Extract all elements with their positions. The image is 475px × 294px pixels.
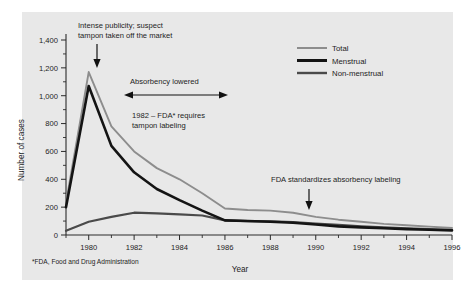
chart-figure: 02004006008001,0001,2001,400198019821984…	[0, 0, 475, 294]
y-tick-label: 1,000	[39, 92, 58, 101]
x-tick-label: 1982	[126, 243, 143, 252]
chart-svg: 02004006008001,0001,2001,400198019821984…	[0, 0, 475, 294]
annotation-absorbency-arrow	[124, 91, 228, 98]
x-tick-label: 1986	[216, 243, 233, 252]
legend-label-menstrual: Menstrual	[332, 57, 367, 66]
series-line-total	[66, 72, 452, 228]
y-tick-label: 600	[45, 147, 58, 156]
x-tick-label: 1996	[444, 243, 461, 252]
legend-label-total: Total	[332, 44, 349, 53]
y-tick-label: 400	[45, 175, 58, 184]
y-tick-label: 200	[45, 203, 58, 212]
x-tick-label: 1992	[353, 243, 370, 252]
annotation-fda1990-arrow	[305, 189, 312, 210]
y-tick-label: 1,200	[39, 64, 58, 73]
annotation-fda1982-line1: 1982 – FDA* requires	[132, 111, 205, 120]
x-axis-title: Year	[232, 265, 249, 274]
x-tick-label: 1990	[307, 243, 324, 252]
y-axis-title: Number of cases	[17, 119, 26, 181]
chart-legend: TotalMenstrualNon-menstrual	[297, 44, 383, 78]
series-line-menstrual	[66, 86, 452, 230]
annotation-peak-line2: tampon taken off the market	[78, 31, 173, 40]
chart-plot-area: 02004006008001,0001,2001,400198019821984…	[0, 0, 475, 294]
annotation-fda1982-line2: tampon labeling	[132, 121, 186, 130]
x-tick-label: 1980	[80, 243, 97, 252]
annotation-peak-line1: Intense publicity; suspect	[78, 21, 164, 30]
annotation-fda1990-label: FDA standardizes absorbency labeling	[271, 175, 401, 184]
y-tick-label: 800	[45, 119, 58, 128]
x-tick-label: 1988	[262, 243, 279, 252]
footnote: *FDA, Food and Drug Administration	[32, 258, 139, 266]
series-layer	[66, 72, 452, 231]
y-tick-label: 1,400	[39, 36, 58, 45]
legend-label-non-menstrual: Non-menstrual	[332, 69, 383, 78]
annotation-absorbency-label: Absorbency lowered	[130, 77, 199, 86]
y-tick-label: 0	[54, 231, 58, 240]
x-tick-label: 1984	[171, 243, 188, 252]
annotation-peak-arrow	[93, 44, 100, 68]
x-tick-label: 1994	[398, 243, 415, 252]
